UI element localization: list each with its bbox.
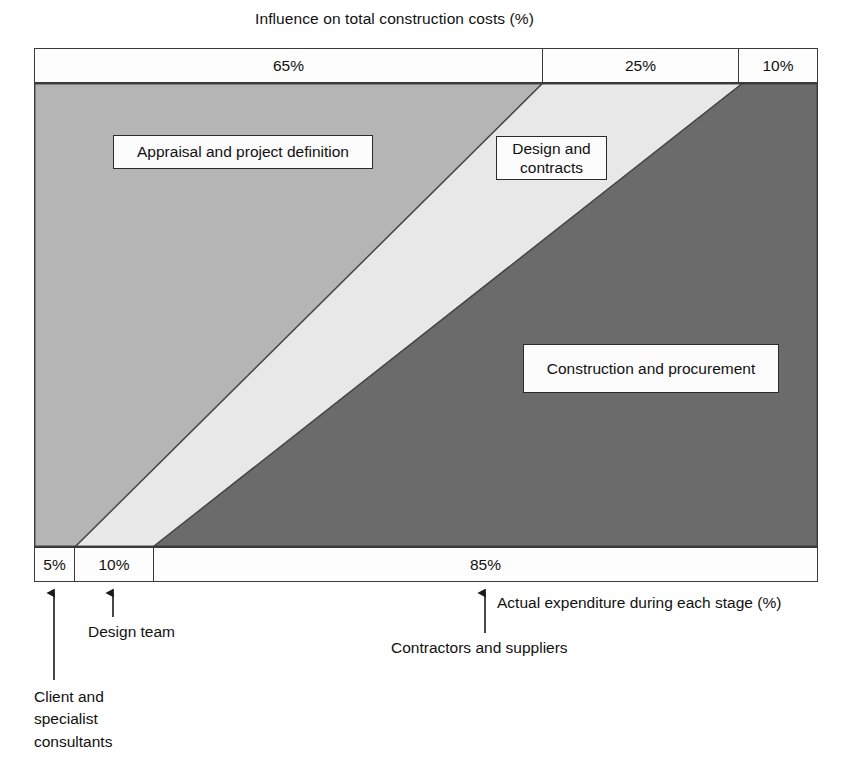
chart-title: Influence on total construction costs (%… xyxy=(0,10,849,28)
callout-appraisal: Appraisal and project definition xyxy=(113,135,373,169)
expenditure-segment-contractors: 85% xyxy=(153,548,817,581)
axis-label-expenditure: Actual expenditure during each stage (%) xyxy=(497,592,781,614)
callout-construction: Construction and procurement xyxy=(523,344,779,393)
influence-segment-construction: 10% xyxy=(738,49,817,82)
annotation-client: Client and specialist consultants xyxy=(34,686,112,753)
influence-bar: 65% 25% 10% xyxy=(34,48,818,83)
expenditure-segment-client: 5% xyxy=(35,548,74,581)
annotation-contractors: Contractors and suppliers xyxy=(391,637,568,659)
expenditure-bar: 5% 10% 85% xyxy=(34,547,818,582)
callout-design: Design and contracts xyxy=(496,136,607,180)
annotation-design-team: Design team xyxy=(88,621,175,643)
influence-segment-appraisal: 65% xyxy=(35,49,542,82)
expenditure-segment-design-team: 10% xyxy=(74,548,153,581)
diagram-canvas: Influence on total construction costs (%… xyxy=(0,0,849,765)
influence-segment-design: 25% xyxy=(542,49,738,82)
